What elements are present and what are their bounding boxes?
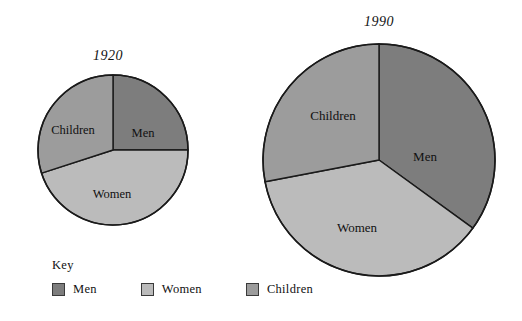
slice-label-children: Children	[51, 123, 95, 137]
pie-chart-1990: MenWomenChildren	[263, 44, 495, 276]
key-item-list: MenWomenChildren	[52, 282, 472, 297]
slice-label-women: Women	[337, 220, 378, 235]
slice-label-men: Men	[132, 126, 156, 140]
key-swatch-children	[246, 283, 259, 296]
chart-key: Key MenWomenChildren	[52, 258, 472, 297]
slice-label-men: Men	[413, 149, 437, 164]
key-swatch-women	[141, 283, 154, 296]
slice-label-women: Women	[93, 187, 132, 201]
key-label-children: Children	[267, 282, 313, 297]
slice-label-children: Children	[310, 108, 356, 123]
key-item-women: Women	[141, 282, 202, 297]
key-swatch-men	[52, 283, 65, 296]
key-label-men: Men	[73, 282, 97, 297]
key-item-men: Men	[52, 282, 97, 297]
pie-chart-figure: 1920 1990 MenWomenChildren MenWomenChild…	[0, 0, 522, 321]
key-item-children: Children	[246, 282, 313, 297]
pie-chart-1920: MenWomenChildren	[38, 75, 188, 225]
key-label-women: Women	[162, 282, 202, 297]
key-title: Key	[52, 258, 472, 273]
